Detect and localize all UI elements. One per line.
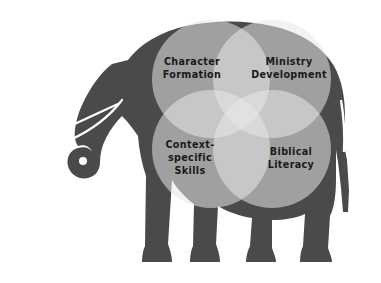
diagram-canvas: Character Formation Ministry Development… [0,0,381,283]
label-ministry-development-line2: Development [251,69,327,80]
trunk-curl-highlight [79,157,87,165]
label-context-specific-skills-line1: Context- [165,139,214,150]
label-context-specific-skills-line2: specific [168,152,212,163]
label-biblical-literacy-line1: Biblical [270,146,312,157]
venn-circles-group [152,20,331,208]
label-ministry-development-line1: Ministry [265,56,312,67]
venn-diagram-figure: Character Formation Ministry Development… [0,0,381,283]
label-character-formation-line2: Formation [163,69,221,80]
label-context-specific-skills-line3: Skills [175,165,206,176]
label-character-formation-line1: Character [164,56,220,67]
label-biblical-literacy-line2: Literacy [268,159,315,170]
